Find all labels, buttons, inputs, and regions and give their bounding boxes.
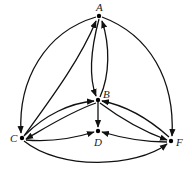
edge-a-to-f bbox=[102, 17, 172, 136]
label-d: D bbox=[93, 136, 102, 148]
node-b bbox=[96, 98, 100, 102]
edge-a-to-c bbox=[21, 17, 96, 133]
edge-c-to-a bbox=[24, 21, 96, 136]
node-c bbox=[20, 136, 24, 140]
label-c: C bbox=[10, 132, 18, 144]
node-d bbox=[96, 129, 100, 133]
edge-b-to-a bbox=[100, 21, 108, 97]
edge-a-to-b bbox=[92, 19, 99, 96]
node-f bbox=[169, 139, 173, 143]
edge-b-to-c bbox=[26, 103, 96, 139]
node-a bbox=[97, 14, 101, 18]
label-f: F bbox=[175, 136, 183, 148]
label-b: B bbox=[103, 88, 110, 100]
edge-f-to-d bbox=[102, 132, 167, 142]
edge-f-to-b bbox=[102, 101, 169, 137]
edge-c-to-b bbox=[25, 101, 94, 135]
graph-diagram: A B C D F bbox=[0, 0, 192, 173]
label-a: A bbox=[95, 1, 103, 13]
